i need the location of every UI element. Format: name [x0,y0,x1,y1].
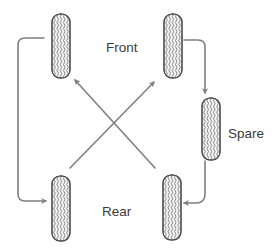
tire-rotation-diagram: Front Rear Spare [0,0,275,252]
tire-rear-left [52,174,70,243]
arrow-front-right-to-spare [184,40,205,93]
tire-front-right [164,12,182,81]
label-front: Front [106,40,138,55]
tire-rear-right [163,173,181,242]
tire-front-left [52,12,70,81]
arrow-front-left-to-rear-left [18,38,46,201]
tire-spare [202,96,220,162]
arrow-spare-to-rear-right [184,161,205,203]
arrow-rear-left-to-front-right [70,82,154,168]
label-spare: Spare [228,126,264,141]
label-rear: Rear [102,204,132,219]
